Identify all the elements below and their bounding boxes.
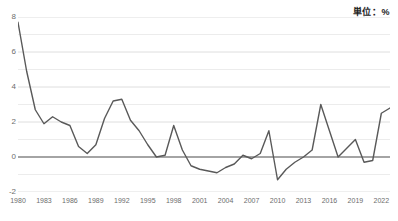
x-axis-tick-label: 1989 (88, 197, 104, 205)
x-axis-labels: 1980198319861989199219951998200120042007… (0, 197, 398, 211)
x-axis-tick-label: 1992 (114, 197, 130, 205)
x-axis-tick-label: 2007 (244, 197, 260, 205)
y-axis-tick-label: 8 (12, 13, 16, 21)
x-axis-tick-label: 1998 (166, 197, 182, 205)
x-axis-tick-label: 2010 (270, 197, 286, 205)
x-axis-tick-label: 2022 (374, 197, 390, 205)
y-axis-tick-label: 6 (12, 48, 16, 56)
x-axis-tick-label: 2016 (322, 197, 338, 205)
x-axis-tick-label: 1986 (62, 197, 78, 205)
data-series-line (18, 22, 390, 180)
y-axis-tick-label: -2 (9, 188, 16, 196)
chart-container: 単位：% 86420-2 198019831986198919921995199… (0, 0, 398, 221)
y-axis-tick-label: 4 (12, 83, 16, 91)
x-axis-tick-label: 1995 (140, 197, 156, 205)
x-axis-tick-label: 2004 (218, 197, 234, 205)
x-axis-tick-label: 2019 (348, 197, 364, 205)
x-axis-tick-label: 1980 (10, 197, 26, 205)
x-axis-tick-label: 2001 (192, 197, 208, 205)
minor-gridlines (18, 35, 390, 175)
x-axis-tick-label: 2013 (296, 197, 312, 205)
y-axis-tick-label: 0 (12, 153, 16, 161)
y-axis-labels: 86420-2 (0, 10, 16, 200)
y-axis-tick-label: 2 (12, 118, 16, 126)
plot-area (18, 17, 390, 192)
x-axis-tick-label: 1983 (36, 197, 52, 205)
line-chart-svg (18, 17, 390, 192)
